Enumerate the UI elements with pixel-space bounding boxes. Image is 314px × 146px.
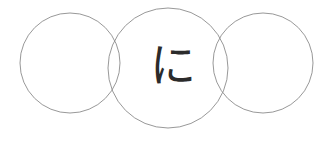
- overlapping-circles-figure: [0, 0, 314, 146]
- image-canvas: に: [0, 0, 314, 146]
- background-rect: [0, 0, 314, 146]
